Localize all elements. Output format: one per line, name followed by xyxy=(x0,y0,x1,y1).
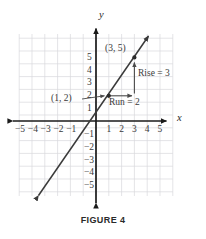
x-axis-label: x xyxy=(177,113,182,124)
x-tick-label-neg3: −3 xyxy=(41,125,51,135)
run-label: Run = 2 xyxy=(109,98,140,108)
point-leader-line xyxy=(82,96,105,99)
y-tick-label-3: 3 xyxy=(87,78,92,88)
y-tick-label-2: 2 xyxy=(87,91,92,101)
x-tick-label-2: 2 xyxy=(119,125,124,135)
x-tick-label-1: 1 xyxy=(106,125,111,135)
y-axis-label: y xyxy=(99,10,104,21)
figure-caption: FIGURE 4 xyxy=(0,215,206,225)
point-3-5-label: (3, 5) xyxy=(105,44,126,54)
x-tick-label-3: 3 xyxy=(132,125,137,135)
y-tick-label-neg5: −5 xyxy=(84,181,94,191)
y-tick-label-5: 5 xyxy=(87,53,92,63)
x-tick-label-4: 4 xyxy=(145,125,150,135)
rise-label: Rise = 3 xyxy=(138,69,170,79)
y-tick-label-neg4: −4 xyxy=(84,168,94,178)
x-tick-label-5: 5 xyxy=(158,125,163,135)
y-tick-label-4: 4 xyxy=(87,66,92,76)
x-tick-label-neg5: −5 xyxy=(15,125,25,135)
y-tick-label-neg3: −3 xyxy=(84,156,94,166)
y-tick-label-neg2: −2 xyxy=(84,143,94,153)
y-tick-label-1: 1 xyxy=(87,104,92,114)
point-3-5-marker xyxy=(132,55,136,59)
point-1-2-label: (1, 2) xyxy=(51,94,72,104)
x-tick-label-neg4: −4 xyxy=(28,125,38,135)
coordinate-plane-graph xyxy=(0,0,206,239)
figure-container: x y −5 −4 −3 −2 −1 1 2 3 4 5 1 2 3 4 5 −… xyxy=(0,0,206,239)
x-tick-label-neg1: −1 xyxy=(66,125,76,135)
y-tick-label-neg1: −1 xyxy=(84,130,94,140)
x-tick-label-neg2: −2 xyxy=(53,125,63,135)
